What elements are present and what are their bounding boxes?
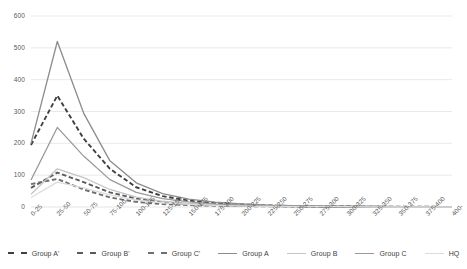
legend-label: Group B xyxy=(311,250,338,257)
legend-swatch-icon xyxy=(425,253,444,254)
legend-swatch-icon xyxy=(148,252,167,254)
legend-item-groupb[interactable]: Group B xyxy=(287,246,338,260)
legend-swatch-icon xyxy=(287,253,306,254)
legend-swatch-icon xyxy=(77,252,96,254)
legend-swatch-icon xyxy=(8,252,27,254)
y-tick-600: 600 xyxy=(3,12,25,19)
series-lines xyxy=(31,41,452,207)
legend-label: Group B' xyxy=(101,250,129,257)
line-chart: 0100200300400500600 0-2525-5050-7575-100… xyxy=(0,0,467,269)
legend-item-hq[interactable]: HQ xyxy=(425,246,460,260)
legend-label: Group C xyxy=(379,250,406,257)
legend-swatch-icon xyxy=(355,253,374,254)
legend-item-groupc[interactable]: Group C' xyxy=(148,246,201,260)
y-tick-0: 0 xyxy=(3,203,25,210)
legend-label: Group C' xyxy=(172,250,201,257)
y-tick-500: 500 xyxy=(3,44,25,51)
legend-swatch-icon xyxy=(218,253,237,254)
y-tick-200: 200 xyxy=(3,139,25,146)
gridlines xyxy=(31,16,452,207)
y-tick-100: 100 xyxy=(3,171,25,178)
y-tick-300: 300 xyxy=(3,108,25,115)
legend-item-groupa[interactable]: Group A xyxy=(218,246,268,260)
chart-legend: Group A'Group B'Group C'Group AGroup BGr… xyxy=(0,243,467,263)
legend-item-groupa[interactable]: Group A' xyxy=(8,246,60,260)
legend-item-groupb[interactable]: Group B' xyxy=(77,246,129,260)
legend-label: HQ xyxy=(449,250,460,257)
plot-area xyxy=(0,0,467,269)
legend-label: Group A xyxy=(242,250,268,257)
legend-label: Group A' xyxy=(32,250,60,257)
legend-item-groupc[interactable]: Group C xyxy=(355,246,406,260)
y-tick-400: 400 xyxy=(3,76,25,83)
